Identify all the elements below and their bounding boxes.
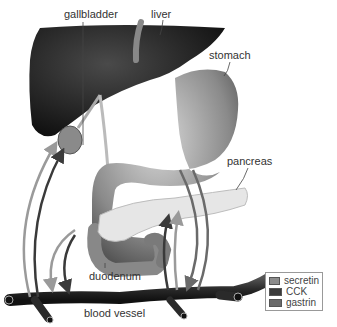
- gallbladder-shape: [58, 126, 82, 154]
- legend-item-cck: CCK: [269, 286, 319, 297]
- label-liver: liver: [151, 9, 171, 20]
- legend-item-gastrin: gastrin: [269, 297, 319, 308]
- legend-label: CCK: [286, 286, 307, 297]
- label-blood-vessel: blood vessel: [84, 308, 145, 319]
- secretin-swatch: [269, 277, 280, 285]
- gastrin-swatch: [269, 299, 282, 307]
- legend-label: secretin: [284, 275, 319, 286]
- pancreas-shape: [98, 188, 248, 241]
- label-stomach: stomach: [209, 50, 251, 61]
- label-duodenum: duodenum: [89, 271, 141, 282]
- legend-label: gastrin: [286, 297, 316, 308]
- label-pancreas: pancreas: [227, 156, 272, 167]
- legend-item-secretin: secretin: [269, 275, 319, 286]
- cck-swatch: [269, 288, 282, 296]
- hormone-legend: secretin CCK gastrin: [265, 272, 323, 311]
- label-gallbladder: gallbladder: [64, 9, 118, 20]
- digestive-hormone-diagram: gallbladder liver stomach pancreas duode…: [0, 0, 337, 327]
